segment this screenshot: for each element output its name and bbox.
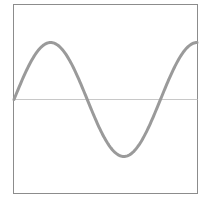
sine-chart: [0, 0, 209, 206]
